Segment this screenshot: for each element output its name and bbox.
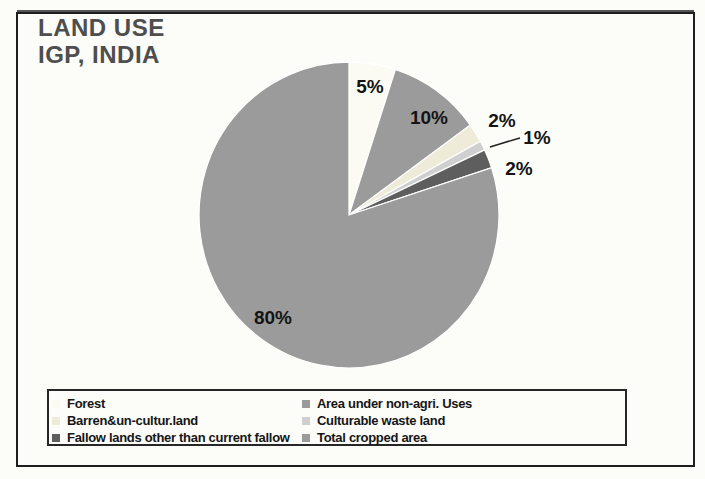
pie-data-label: 1% bbox=[523, 127, 551, 148]
legend-item-fallow-lands: Fallow lands other than current fallow bbox=[49, 429, 299, 446]
legend-label: Area under non-agri. Uses bbox=[317, 396, 472, 411]
pie-data-label: 2% bbox=[488, 110, 516, 131]
legend-label: Culturable waste land bbox=[317, 413, 445, 428]
legend: Forest Area under non-agri. Uses Barren&… bbox=[47, 389, 627, 446]
legend-marker-fallow-lands bbox=[52, 434, 60, 442]
pie-data-label: 2% bbox=[505, 158, 533, 179]
legend-item-forest: Forest bbox=[49, 395, 299, 412]
pie-data-label: 10% bbox=[410, 107, 448, 128]
callout-line bbox=[490, 138, 520, 147]
pie-data-label: 5% bbox=[356, 76, 384, 97]
legend-marker-non-agri-uses bbox=[302, 400, 310, 408]
legend-marker-forest bbox=[52, 400, 60, 408]
scanned-chart-page: LAND USE IGP, INDIA 5%10%2%1%2%80% Fores… bbox=[0, 0, 705, 479]
legend-label: Forest bbox=[67, 396, 105, 411]
legend-item-non-agri-uses: Area under non-agri. Uses bbox=[299, 395, 625, 412]
legend-label: Total cropped area bbox=[317, 430, 427, 445]
legend-item-total-cropped: Total cropped area bbox=[299, 429, 625, 446]
legend-marker-culturable-waste bbox=[302, 417, 310, 425]
legend-marker-total-cropped bbox=[302, 434, 310, 442]
legend-item-culturable-waste: Culturable waste land bbox=[299, 412, 625, 429]
legend-item-barren-land: Barren&un-cultur.land bbox=[49, 412, 299, 429]
pie-data-label: 80% bbox=[254, 307, 292, 328]
legend-label: Fallow lands other than current fallow bbox=[67, 430, 290, 445]
legend-label: Barren&un-cultur.land bbox=[67, 413, 198, 428]
legend-marker-barren-land bbox=[52, 417, 60, 425]
